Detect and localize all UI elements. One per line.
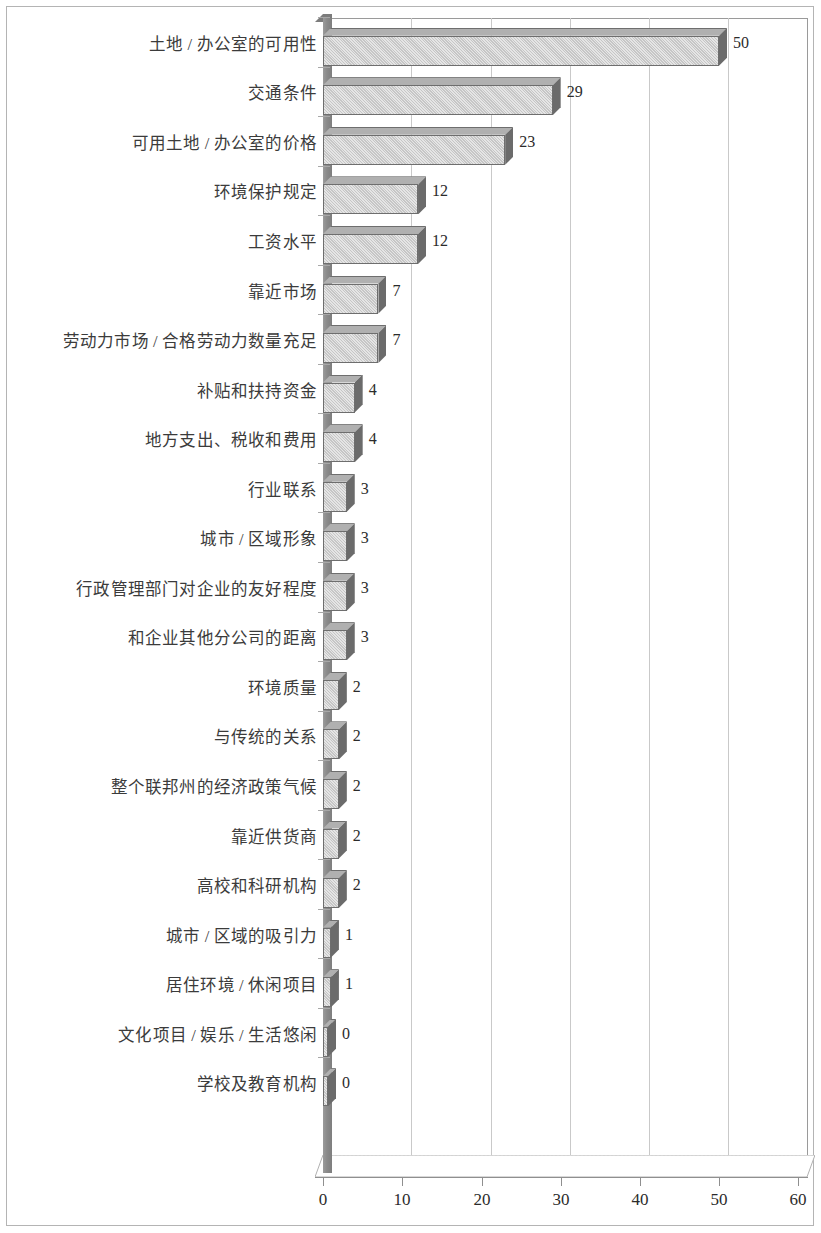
bar-front-face: [323, 482, 347, 512]
bar[interactable]: [323, 821, 347, 851]
xtick-50: [719, 1177, 720, 1186]
category-label: 居住环境 / 休闲项目: [166, 972, 317, 996]
category-label: 工资水平: [248, 229, 317, 253]
bar-front-face: [323, 184, 418, 214]
bar-top-face: [323, 28, 727, 36]
category-label: 城市 / 区域形象: [200, 526, 317, 550]
bar-front-face: [323, 284, 378, 314]
bar-front-face: [323, 779, 339, 809]
bar-rows: 土地 / 办公室的可用性50交通条件29可用土地 / 办公室的价格23环境保护规…: [0, 18, 821, 1158]
category-tick: [318, 215, 330, 216]
bar-front-face: [323, 829, 339, 859]
category-tick: [318, 116, 330, 117]
category-tick: [318, 909, 330, 910]
bar-value-label: 7: [392, 331, 400, 349]
bar-front-face: [323, 977, 331, 1007]
bar[interactable]: [323, 573, 355, 603]
bar[interactable]: [323, 969, 339, 999]
bar-front-face: [323, 878, 339, 908]
bar[interactable]: [323, 424, 363, 454]
category-tick: [318, 711, 330, 712]
bar[interactable]: [323, 176, 426, 206]
bar-value-label: 7: [392, 282, 400, 300]
bar[interactable]: [323, 474, 355, 504]
category-label: 高校和科研机构: [197, 873, 317, 897]
bar-value-label: 2: [353, 876, 361, 894]
bar[interactable]: [323, 622, 355, 652]
xtick-40: [640, 1177, 641, 1186]
plot-floor: [315, 1155, 815, 1177]
bar-value-label: 2: [353, 827, 361, 845]
category-label: 地方支出、税收和费用: [145, 427, 317, 451]
bar-row: 与传统的关系2: [0, 712, 821, 762]
bar-row: 环境保护规定12: [0, 167, 821, 217]
bar-value-label: 23: [519, 133, 535, 151]
bar-value-label: 29: [567, 83, 583, 101]
bar-row: 文化项目 / 娱乐 / 生活悠闲0: [0, 1009, 821, 1059]
bar-front-face: [323, 234, 418, 264]
xtick-label-0: 0: [319, 1190, 328, 1210]
category-tick: [318, 265, 330, 266]
bar-value-label: 3: [361, 480, 369, 498]
category-tick: [318, 512, 330, 513]
category-label: 文化项目 / 娱乐 / 生活悠闲: [118, 1022, 317, 1046]
bar[interactable]: [323, 920, 339, 950]
bar[interactable]: [323, 771, 347, 801]
bar-front-face: [323, 630, 347, 660]
bar[interactable]: [323, 325, 386, 355]
category-label: 和企业其他分公司的距离: [128, 625, 317, 649]
bar-front-face: [323, 531, 347, 561]
bar[interactable]: [323, 28, 727, 58]
bar[interactable]: [323, 672, 347, 702]
xtick-30: [561, 1177, 562, 1186]
bar[interactable]: [323, 523, 355, 553]
category-tick: [318, 17, 330, 18]
category-tick: [318, 67, 330, 68]
bar-front-face: [323, 135, 505, 165]
category-label: 劳动力市场 / 合格劳动力数量充足: [63, 328, 317, 352]
bar-chart-plot: 土地 / 办公室的可用性50交通条件29可用土地 / 办公室的价格23环境保护规…: [0, 0, 821, 1233]
bar-front-face: [323, 928, 331, 958]
xtick-60: [798, 1177, 799, 1186]
bar-top-face: [323, 276, 386, 284]
bar-row: 环境质量2: [0, 662, 821, 712]
bar-row: 学校及教育机构0: [0, 1058, 821, 1108]
xtick-label-60: 60: [790, 1190, 807, 1210]
bar-row: 整个联邦州的经济政策气候2: [0, 761, 821, 811]
category-label: 可用土地 / 办公室的价格: [132, 130, 317, 154]
category-label: 靠近供货商: [231, 824, 317, 848]
xtick-label-20: 20: [474, 1190, 491, 1210]
bar-value-label: 2: [353, 777, 361, 795]
bar-row: 工资水平12: [0, 216, 821, 266]
bar[interactable]: [323, 1019, 336, 1049]
category-tick: [318, 166, 330, 167]
bar-top-face: [323, 176, 426, 184]
bar-row: 劳动力市场 / 合格劳动力数量充足7: [0, 315, 821, 365]
bar-front-face: [323, 85, 553, 115]
bar[interactable]: [323, 276, 386, 306]
bar-row: 交通条件29: [0, 68, 821, 118]
category-tick: [318, 1008, 330, 1009]
bar[interactable]: [323, 1068, 336, 1098]
category-tick: [318, 1057, 330, 1058]
bar-front-face: [323, 36, 719, 66]
bar[interactable]: [323, 870, 347, 900]
bar-value-label: 0: [342, 1025, 350, 1043]
bar[interactable]: [323, 375, 363, 405]
category-tick: [318, 661, 330, 662]
bar-top-face: [323, 77, 561, 85]
bar[interactable]: [323, 127, 513, 157]
bar-row: 行业联系3: [0, 464, 821, 514]
category-label: 补贴和扶持资金: [197, 378, 317, 402]
bar-row: 城市 / 区域形象3: [0, 513, 821, 563]
category-tick: [318, 413, 330, 414]
bar[interactable]: [323, 226, 426, 256]
bar-value-label: 3: [361, 628, 369, 646]
category-label: 环境保护规定: [214, 179, 317, 203]
bar-front-face: [323, 432, 355, 462]
category-tick: [318, 364, 330, 365]
bar[interactable]: [323, 77, 561, 107]
bar-front-face: [323, 729, 339, 759]
bar-row: 靠近市场7: [0, 266, 821, 316]
bar[interactable]: [323, 721, 347, 751]
